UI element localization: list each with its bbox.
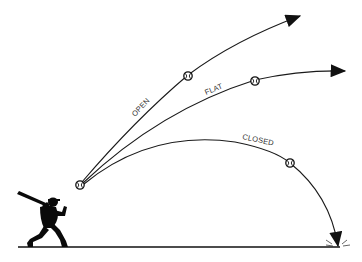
baseball-icon-closed <box>286 159 294 167</box>
trajectory-closed <box>84 140 338 246</box>
label-flat: FLAT <box>203 81 224 96</box>
label-open: OPEN <box>130 96 152 118</box>
baseball-icon-flat <box>251 77 259 85</box>
label-closed: CLOSED <box>242 132 276 148</box>
baseball-icon-open <box>184 72 192 80</box>
batter-silhouette-icon <box>17 191 68 247</box>
baseball-icon-start <box>76 181 84 189</box>
trajectory-open <box>82 16 300 182</box>
trajectory-diagram: OPEN FLAT CLOSED <box>0 0 362 262</box>
